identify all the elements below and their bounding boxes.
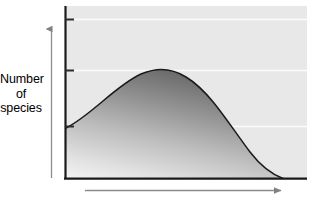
y-axis-label: Number of species: [0, 72, 42, 116]
species-richness-chart: [0, 0, 312, 202]
chart-figure: Number of species: [0, 0, 312, 202]
